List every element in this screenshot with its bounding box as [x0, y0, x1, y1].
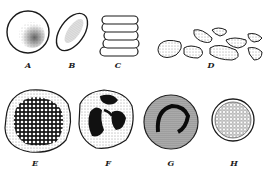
label-b: B — [69, 60, 76, 70]
label-g: G — [168, 158, 175, 168]
cell-f-neutrophil — [79, 90, 133, 148]
figure-drawing — [0, 0, 267, 172]
cell-b-erythrocyte-oblique — [50, 8, 94, 56]
cell-a-erythrocyte — [7, 11, 49, 53]
label-d: D — [208, 60, 215, 70]
label-h: H — [230, 158, 238, 168]
cell-e-granulocyte-large — [5, 90, 71, 152]
label-e: E — [32, 158, 38, 168]
cell-h-small-round — [212, 99, 254, 141]
blood-cells-figure: A B C D E F G H — [0, 0, 267, 172]
cell-c-rouleaux — [100, 16, 139, 56]
cell-g-dark-granulocyte — [144, 95, 198, 149]
label-a: A — [25, 60, 31, 70]
cell-d-platelets — [158, 28, 262, 60]
label-c: C — [115, 60, 121, 70]
label-f: F — [105, 158, 111, 168]
